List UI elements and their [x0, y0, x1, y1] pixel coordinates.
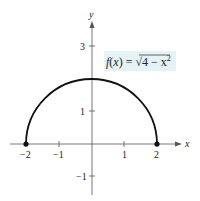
y-tick-label: 3	[80, 41, 85, 52]
y-tick-label: 1	[80, 106, 85, 117]
x-axis-label: x	[184, 138, 190, 149]
y-tick-label: −1	[76, 171, 87, 182]
x-tick-label: 2	[154, 149, 159, 160]
x-tick-label: −1	[53, 149, 64, 160]
x-tick-label: −2	[20, 149, 31, 160]
x-tick-label: 1	[122, 149, 127, 160]
endpoint-right	[154, 141, 159, 146]
y-axis-label: y	[88, 9, 94, 20]
y-axis-arrow-icon	[90, 21, 95, 28]
chart-canvas: f(x) = √4 − x2 x y −2 −1 1 2 3 1	[0, 0, 200, 201]
semicircle-chart: f(x) = √4 − x2 x y −2 −1 1 2 3 1	[0, 0, 200, 201]
function-curve	[26, 79, 157, 144]
function-label: f(x) = √4 − x2	[106, 54, 171, 69]
x-axis-arrow-icon	[175, 142, 182, 147]
endpoint-left	[23, 141, 28, 146]
